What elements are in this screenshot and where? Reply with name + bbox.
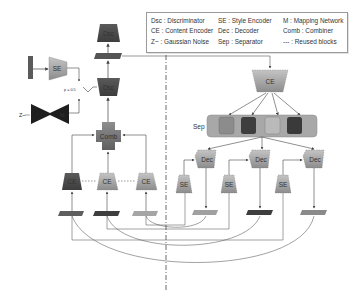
svg-text:Dsc: Dsc xyxy=(103,84,115,91)
input-bar-2 xyxy=(93,211,120,216)
decoder-right-3: Dec xyxy=(303,150,324,168)
style-encoder-left: SE xyxy=(49,57,67,80)
output-bar-3 xyxy=(300,210,327,215)
svg-text:SE: SE xyxy=(225,181,234,188)
mapping-network: M xyxy=(31,104,69,124)
style-encoder-right-2: SE xyxy=(221,175,237,193)
switch-probability-label: p = 0.5 xyxy=(64,88,76,92)
feature-bar-top xyxy=(94,53,122,59)
content-encoder-right: CE xyxy=(252,70,288,92)
sep-label: Sep xyxy=(193,123,205,131)
decoder-right-1: Dec xyxy=(195,150,216,168)
content-encoder-left-1: CE xyxy=(62,173,82,190)
noise-label: Z~ xyxy=(19,112,26,118)
content-encoder-left-3: CE xyxy=(136,173,157,190)
legend-col-3: M : Mapping Network Comb : Combiner --- … xyxy=(283,16,343,47)
decoder-right-2: Dec xyxy=(249,150,270,168)
dsc-label: Dsc xyxy=(103,30,115,37)
svg-text:CE: CE xyxy=(102,178,112,185)
legend-col-1: Dsc : Discriminator CE : Content Encoder… xyxy=(151,16,213,47)
separator-block xyxy=(207,115,317,137)
svg-text:Dec: Dec xyxy=(309,156,321,163)
legend-col-2: SE : Style Encoder Dec : Decoder Sep : S… xyxy=(218,16,272,47)
input-bar-vertical xyxy=(28,56,33,79)
input-bar-3 xyxy=(132,211,158,216)
switch: p = 0.5 xyxy=(64,87,97,92)
output-bar-1 xyxy=(192,210,218,215)
svg-text:Comb: Comb xyxy=(100,133,118,140)
svg-text:CE: CE xyxy=(265,78,275,85)
input-bar-1 xyxy=(58,211,84,216)
svg-text:Dec: Dec xyxy=(201,156,213,163)
svg-text:CE: CE xyxy=(141,178,151,185)
style-encoder-right-3: SE xyxy=(275,175,291,193)
content-encoder-left-2: CE xyxy=(97,173,118,190)
svg-text:CE: CE xyxy=(67,178,77,185)
style-encoder-right-1: SE xyxy=(176,175,192,193)
svg-text:SE: SE xyxy=(180,181,189,188)
svg-text:Dec: Dec xyxy=(255,156,267,163)
svg-text:M: M xyxy=(60,112,65,118)
output-bar-2 xyxy=(246,210,273,215)
svg-text:SE: SE xyxy=(279,181,288,188)
svg-text:SE: SE xyxy=(53,65,62,72)
decoder-main-block: Dsc xyxy=(97,78,120,96)
legend-box: Dsc : Discriminator CE : Content Encoder… xyxy=(146,12,348,53)
discriminator-block: Dsc xyxy=(97,24,120,42)
combiner-block: Comb xyxy=(96,122,121,150)
